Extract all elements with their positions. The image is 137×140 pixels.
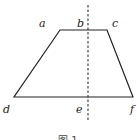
label-d: d xyxy=(3,103,10,116)
label-a: a xyxy=(39,17,46,30)
label-c: c xyxy=(112,17,118,30)
trapezoid-shape xyxy=(14,30,133,97)
figure-caption: 图 1 xyxy=(58,135,78,140)
label-b: b xyxy=(77,17,84,30)
trapezoid-diagram: a b c d e f 图 1 xyxy=(0,0,137,140)
label-e: e xyxy=(76,103,83,116)
label-f: f xyxy=(129,103,136,116)
